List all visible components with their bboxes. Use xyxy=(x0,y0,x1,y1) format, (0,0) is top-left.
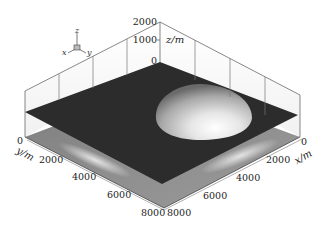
triad-x-label: x xyxy=(62,48,67,57)
triad-z-label: z xyxy=(74,26,80,35)
3d-surface-chart: z x y 2000 1000 0 z/m 0 2000 4000 6000 8… xyxy=(0,0,320,232)
z-axis-label: z/m xyxy=(165,34,184,45)
x-axis-label: x/m xyxy=(292,147,314,166)
x-tick-6000: 6000 xyxy=(203,190,227,201)
y-tick-2000: 2000 xyxy=(39,154,63,165)
z-tick-1000: 1000 xyxy=(133,34,157,45)
orientation-triad: z x y xyxy=(62,26,92,57)
x-tick-0: 0 xyxy=(301,136,307,147)
triad-cube-icon xyxy=(74,45,80,50)
x-tick-4000: 4000 xyxy=(236,172,260,183)
x-tick-2000: 2000 xyxy=(266,154,290,165)
x-tick-8000: 8000 xyxy=(167,207,191,218)
y-axis-label: y/m xyxy=(14,144,36,163)
z-tick-2000: 2000 xyxy=(133,16,157,27)
z-tick-0: 0 xyxy=(151,55,157,66)
y-tick-4000: 4000 xyxy=(72,171,96,182)
y-tick-6000: 6000 xyxy=(107,189,131,200)
triad-y-label: y xyxy=(86,48,92,57)
y-tick-8000: 8000 xyxy=(141,207,165,218)
